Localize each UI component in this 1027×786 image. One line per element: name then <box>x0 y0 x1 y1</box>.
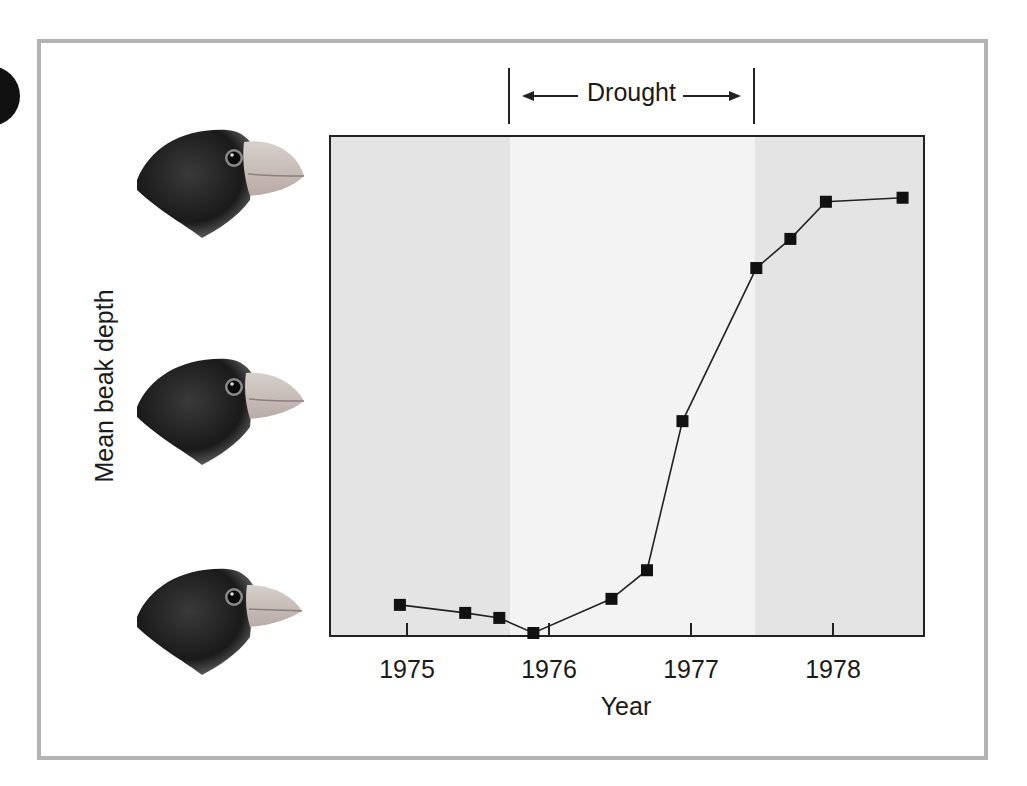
x-tick-label: 1978 <box>805 655 861 684</box>
x-tick-label: 1976 <box>521 655 577 684</box>
finch-head-icon <box>132 555 307 675</box>
x-tick-label: 1975 <box>379 655 435 684</box>
data-point-marker <box>784 233 796 245</box>
finch-head-icon <box>132 345 307 465</box>
y-axis-label: Mean beak depth <box>90 289 119 482</box>
data-point-marker <box>527 627 539 639</box>
x-tick-label: 1977 <box>663 655 719 684</box>
data-point-marker <box>459 607 471 619</box>
data-point-marker <box>394 599 406 611</box>
data-point-marker <box>820 196 832 208</box>
x-axis-label: Year <box>601 692 652 721</box>
data-point-marker <box>605 593 617 605</box>
data-point-marker <box>676 415 688 427</box>
data-point-marker <box>897 192 909 204</box>
data-markers <box>394 192 909 639</box>
x-axis-ticks <box>407 623 833 637</box>
finch-head-icon <box>132 118 307 238</box>
data-point-marker <box>641 564 653 576</box>
data-point-marker <box>493 612 505 624</box>
data-point-marker <box>750 262 762 274</box>
